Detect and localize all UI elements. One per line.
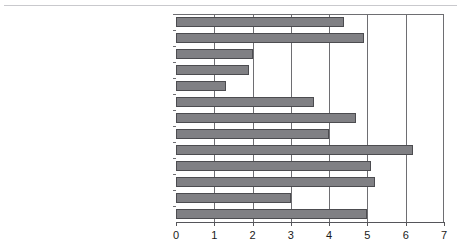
bar [176, 49, 253, 59]
bar-row: Wholesale trade [176, 126, 444, 142]
bar-row: Finance and insurance [176, 78, 444, 94]
bar-row: Agriculture, forestry and fishing [176, 206, 444, 222]
bar-row: Professional and business services [176, 46, 444, 62]
y-tick-mark [173, 126, 176, 127]
y-tick-mark [173, 174, 176, 175]
x-tick-label-0: 0 [161, 228, 191, 242]
bar [176, 209, 367, 219]
bar-row: Construction [176, 174, 444, 190]
x-tick-label-3: 3 [276, 228, 306, 242]
bar-row: Utilities [176, 94, 444, 110]
x-tick-mark-7 [444, 222, 445, 226]
x-tick-label-5: 5 [352, 228, 382, 242]
bar [176, 81, 226, 91]
bar [176, 129, 329, 139]
y-tick-mark [173, 62, 176, 63]
x-tick-mark-2 [253, 222, 254, 226]
x-tick-mark-6 [406, 222, 407, 226]
x-tick-label-1: 1 [199, 228, 229, 242]
bar-row: Leisure and hospitality [176, 14, 444, 30]
y-tick-mark [173, 142, 176, 143]
y-tick-mark [173, 14, 176, 15]
x-tick-mark-1 [214, 222, 215, 226]
y-tick-mark [173, 158, 176, 159]
bar-row: Mining [176, 190, 444, 206]
y-tick-mark [173, 94, 176, 95]
y-tick-mark [173, 206, 176, 207]
bar [176, 145, 413, 155]
x-axis-line [176, 222, 445, 223]
x-tick-label-7: 7 [429, 228, 459, 242]
x-tick-label-6: 6 [391, 228, 421, 242]
bar [176, 161, 371, 171]
bar-row: Manufacturing [176, 158, 444, 174]
bar [176, 193, 291, 203]
y-tick-mark [173, 78, 176, 79]
bar-chart-figure: Leisure and hospitalityEducation and hea… [0, 0, 461, 249]
bar [176, 97, 314, 107]
x-tick-mark-0 [176, 222, 177, 226]
x-tick-label-4: 4 [314, 228, 344, 242]
bar [176, 17, 344, 27]
bar-row: Information [176, 62, 444, 78]
bar [176, 113, 356, 123]
bar-row: Transportation and warehousing [176, 142, 444, 158]
bar [176, 65, 249, 75]
y-tick-mark [173, 190, 176, 191]
x-tick-mark-3 [291, 222, 292, 226]
bar [176, 177, 375, 187]
bar-row: Retail trade [176, 110, 444, 126]
x-tick-mark-4 [329, 222, 330, 226]
y-tick-mark [173, 30, 176, 31]
plot-area: Leisure and hospitalityEducation and hea… [176, 14, 444, 222]
y-tick-mark [173, 46, 176, 47]
x-tick-mark-5 [367, 222, 368, 226]
x-tick-label-2: 2 [238, 228, 268, 242]
y-tick-mark [173, 110, 176, 111]
bar [176, 33, 364, 43]
header-divider [4, 5, 457, 6]
bar-row: Education and health services [176, 30, 444, 46]
